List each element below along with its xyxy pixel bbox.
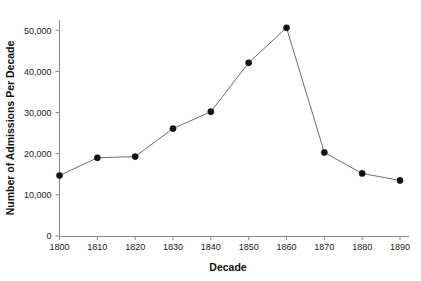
x-tick-label: 1860 [276,242,296,252]
data-point-marker [321,149,327,155]
x-axis-title: Decade [209,261,247,273]
x-tick-label: 1850 [239,242,259,252]
data-point-marker [246,60,252,66]
x-tick-label: 1870 [314,242,334,252]
y-tick-label: 30,000 [24,108,52,118]
data-point-marker [170,125,176,131]
y-tick-label: 20,000 [24,149,52,159]
x-tick-label: 1880 [352,242,372,252]
x-tick-label: 1820 [125,242,145,252]
y-tick-label: 50,000 [24,26,52,36]
x-tick-label: 1810 [87,242,107,252]
chart-canvas: 010,00020,00030,00040,00050,000 Number o… [0,0,421,281]
x-tick-label: 1890 [390,242,410,252]
x-tick-label: 1800 [49,242,69,252]
y-tick-label: 10,000 [24,190,52,200]
y-tick-label: 0 [46,231,51,241]
data-point-marker [283,25,289,31]
data-point-marker [94,155,100,161]
y-axis-title: Number of Admissions Per Decade [4,41,16,216]
line-chart: 010,00020,00030,00040,00050,000 Number o… [0,0,421,281]
data-point-marker [208,109,214,115]
data-point-marker [397,177,403,183]
x-tick-label: 1830 [163,242,183,252]
x-tick-label: 1840 [201,242,221,252]
data-point-marker [56,172,62,178]
data-point-marker [359,170,365,176]
y-tick-label: 40,000 [24,67,52,77]
data-point-marker [132,153,138,159]
